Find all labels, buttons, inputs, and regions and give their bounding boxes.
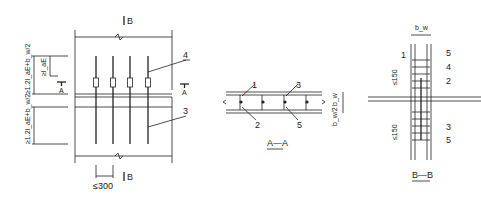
plan-view: 4 3 B B A A ≥1.2l_aE+b_w/2 ≥l_aE ≥1.2l_a… — [24, 16, 190, 191]
section-aa: 1 2 3 5 b_w b_w/2 A—A — [223, 80, 343, 149]
section-a-left-label: A — [59, 87, 64, 94]
bb-dim-width: b_w — [415, 24, 429, 32]
aa-callout-2: 2 — [255, 120, 260, 130]
dim-lae-label: ≥l_aE — [40, 58, 48, 76]
bb-dim-bottom-spacing: ≤150 — [391, 124, 398, 140]
bb-callout-5a: 5 — [446, 48, 451, 58]
aa-callout-5: 5 — [297, 120, 302, 130]
bb-title: B—B — [412, 170, 433, 180]
section-bb: b_w 1 5 4 2 3 5 ≤150 ≤150 B—B — [368, 24, 481, 181]
drawing-canvas: 4 3 B B A A ≥1.2l_aE+b_w/2 ≥l_aE ≥1.2l_a… — [0, 0, 481, 203]
dim-spacing-label: ≤300 — [93, 181, 113, 191]
bb-callout-3: 3 — [446, 122, 451, 132]
callout-3: 3 — [183, 106, 188, 116]
aa-callout-3: 3 — [296, 80, 301, 90]
bb-dim-top-spacing: ≤150 — [391, 69, 398, 85]
section-b-bottom-label: B — [127, 172, 133, 182]
section-b-top-label: B — [127, 16, 133, 26]
callout-4: 4 — [183, 50, 188, 60]
aa-callout-1: 1 — [252, 80, 257, 90]
aa-dim-top: b_w — [331, 92, 339, 106]
section-a-right-label: A — [182, 89, 187, 96]
aa-dim-bottom: b_w/2 — [331, 107, 339, 126]
dim-upper-label: ≥1.2l_aE+b_w/2 — [24, 44, 32, 94]
aa-title: A—A — [267, 138, 288, 148]
bb-callout-5b: 5 — [446, 135, 451, 145]
bb-callout-2: 2 — [446, 76, 451, 86]
bb-callout-1: 1 — [401, 50, 406, 60]
dim-lower-label: ≥1.2l_aE+b_w/2 — [24, 94, 32, 144]
bb-callout-4: 4 — [446, 62, 451, 72]
